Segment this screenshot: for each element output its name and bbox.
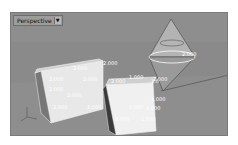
svg-text:2.000: 2.000 <box>153 76 167 82</box>
svg-text:2.000: 2.000 <box>53 104 67 110</box>
scene-canvas[interactable]: 2.000 2.000 2.000 2.000 2.000 2.000 2.00… <box>11 13 228 136</box>
svg-text:2.000: 2.000 <box>111 78 125 84</box>
world-axes-icon <box>21 107 37 121</box>
double-cone[interactable]: 2.000 2.000 <box>149 19 196 91</box>
svg-text:2.000: 2.000 <box>83 76 97 82</box>
svg-text:2.000: 2.000 <box>73 65 87 71</box>
svg-text:2.000: 2.000 <box>115 116 129 122</box>
svg-text:1.000: 1.000 <box>129 74 143 80</box>
svg-text:2.000: 2.000 <box>103 60 117 66</box>
svg-text:2.000: 2.000 <box>49 76 63 82</box>
svg-text:1.000: 1.000 <box>141 116 155 122</box>
box-right[interactable]: 1.000 1.000 1.000 1.000 1.000 1.000 2.00… <box>103 74 165 135</box>
svg-text:2.000: 2.000 <box>49 86 63 92</box>
svg-text:2.000: 2.000 <box>67 92 81 98</box>
svg-text:1.000: 1.000 <box>129 104 143 110</box>
svg-text:1.000: 1.000 <box>146 105 160 111</box>
svg-text:2.000: 2.000 <box>87 104 101 110</box>
svg-text:1.000: 1.000 <box>151 96 165 102</box>
svg-text:2.000: 2.000 <box>182 51 196 57</box>
perspective-viewport[interactable]: Perspective ▼ 2.000 2.000 2.000 2.000 2.… <box>10 12 228 136</box>
